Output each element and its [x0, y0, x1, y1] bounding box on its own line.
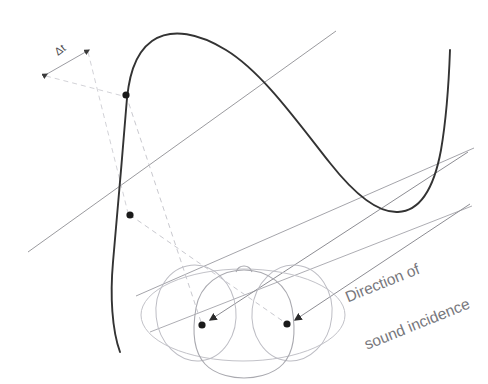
wavefront-line-upper: [28, 31, 336, 252]
incidence-arrows: [210, 152, 470, 320]
wavefront-line-middle: [136, 148, 474, 296]
head-group: [141, 261, 345, 378]
head-outline: [194, 270, 294, 378]
figure-canvas: Δt Direction of sound incidence: [0, 0, 488, 384]
incidence-arrow-to-right-ear: [295, 204, 470, 320]
projection-line-bracket-lower: [46, 76, 123, 96]
wavefront-lines: [28, 31, 474, 332]
curve-point-upper: [122, 91, 129, 98]
projection-line-bracket-upper: [88, 52, 128, 213]
left-ellipse: [151, 261, 241, 365]
projection-line-upper-to-left-ear: [126, 95, 202, 325]
waveform-curve: [112, 33, 450, 352]
outer-ellipse: [141, 269, 345, 361]
waveform-sample-points: [122, 91, 133, 218]
right-ear-dot: [283, 320, 290, 327]
left-ear-dot: [198, 321, 205, 328]
delta-t-double-arrow: [47, 50, 89, 74]
delta-t-bracket: [47, 50, 89, 74]
curve-point-lower: [126, 211, 133, 218]
diagram-svg: [0, 0, 488, 384]
incidence-arrow-to-left-ear: [210, 152, 468, 320]
